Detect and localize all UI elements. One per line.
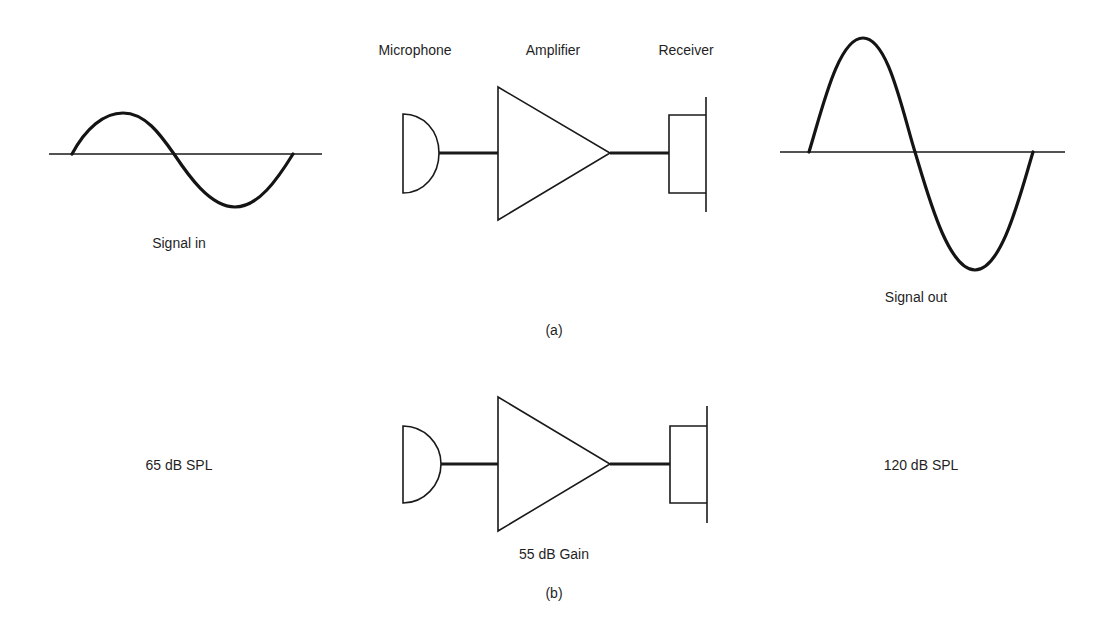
panel-a: Signal in Microphone Amplifier Receiver …: [49, 38, 1065, 338]
panel-b-caption: (b): [545, 585, 562, 601]
receiver-icon: [669, 97, 706, 212]
panel-a-caption: (a): [545, 322, 562, 338]
microphone-icon: [403, 426, 441, 503]
amplifier-icon: [498, 397, 610, 531]
output-level-label: 120 dB SPL: [884, 457, 959, 473]
receiver-label: Receiver: [658, 42, 714, 58]
signal-out-waveform: Signal out: [780, 38, 1065, 305]
microphone-icon: [403, 114, 439, 193]
hearing-aid-block-diagram: Signal in Microphone Amplifier Receiver …: [0, 0, 1110, 625]
receiver-icon: [670, 406, 707, 523]
signal-out-label: Signal out: [885, 289, 947, 305]
microphone-label: Microphone: [378, 42, 451, 58]
panel-b: 65 dB SPL 55 dB Gain 120 dB SPL (b): [146, 397, 959, 601]
amplifier-gain-label: 55 dB Gain: [519, 546, 589, 562]
input-level-label: 65 dB SPL: [146, 457, 213, 473]
signal-in-waveform: Signal in: [49, 113, 322, 251]
signal-in-label: Signal in: [152, 235, 206, 251]
signal-out-sine-icon: [809, 38, 1033, 270]
amplifier-icon: [498, 87, 610, 220]
signal-in-sine-icon: [72, 113, 293, 207]
amplifier-label: Amplifier: [526, 42, 581, 58]
